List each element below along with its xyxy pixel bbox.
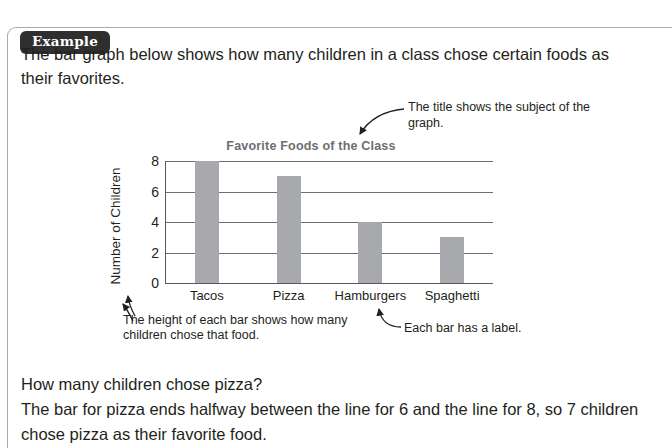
x-tick-label: Tacos: [190, 288, 224, 303]
y-tick-label: 0: [151, 276, 159, 290]
answer-block: How many children chose pizza? The bar f…: [21, 372, 651, 447]
callout-bar-label-text: Each bar has a label.: [404, 321, 584, 336]
bar-pizza: [277, 176, 301, 283]
bar-spaghetti: [440, 237, 464, 283]
x-tick-label: Spaghetti: [425, 288, 480, 303]
callout-title-text: The title shows the subject of the graph…: [408, 99, 618, 131]
bar-tacos: [195, 161, 219, 283]
intro-paragraph: The bar graph below shows how many child…: [21, 42, 636, 90]
chart-title: Favorite Foods of the Class: [121, 139, 501, 153]
x-tick-label: Pizza: [273, 288, 305, 303]
y-tick-label: 6: [151, 185, 159, 199]
bar-hamburgers: [358, 222, 382, 283]
plot-area: 02468TacosPizzaHamburgersSpaghetti: [165, 161, 493, 284]
y-axis-label: Number of Children: [108, 161, 124, 291]
x-tick-label: Hamburgers: [335, 288, 407, 303]
answer-question: How many children chose pizza?: [21, 372, 651, 397]
arrow-to-title-icon: [360, 109, 404, 134]
bar-chart: Favorite Foods of the Class Number of Ch…: [121, 139, 501, 314]
callout-bar-height-text: The height of each bar shows how many ch…: [123, 313, 373, 343]
figure-region: The title shows the subject of the graph…: [0, 95, 672, 360]
answer-explanation: The bar for pizza ends halfway between t…: [21, 397, 651, 447]
y-tick-label: 2: [151, 246, 159, 260]
y-tick-label: 8: [151, 154, 159, 168]
y-tick-label: 4: [151, 215, 159, 229]
